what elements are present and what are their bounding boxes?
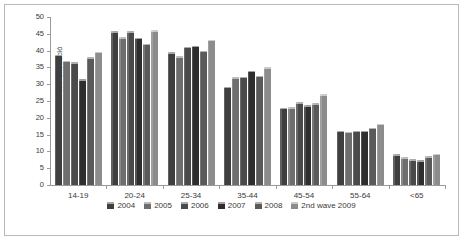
legend-item[interactable]: 2006 xyxy=(181,201,209,210)
x-axis-tick-label: 25-34 xyxy=(163,191,219,200)
bar xyxy=(176,56,183,185)
bar xyxy=(63,61,70,185)
bar xyxy=(256,76,263,185)
bar-highlight-edge xyxy=(337,131,339,185)
bar xyxy=(87,57,94,185)
legend-label: 2005 xyxy=(154,201,172,210)
x-axis-group-separator xyxy=(276,185,277,189)
y-axis-tick-label: 5 xyxy=(40,163,44,172)
legend-label: 2004 xyxy=(117,201,135,210)
chart-legend: 200420052006200720082nd wave 2009 xyxy=(5,201,458,210)
bar-group xyxy=(276,17,332,185)
y-axis-tick: 25 xyxy=(24,101,50,102)
bar-highlight-edge xyxy=(320,94,322,185)
x-axis-group-separator xyxy=(445,185,446,189)
y-axis-tick-label: 40 xyxy=(36,46,44,55)
legend-item[interactable]: 2008 xyxy=(255,201,283,210)
x-axis-tick-label: 20-24 xyxy=(106,191,162,200)
y-axis-tick-label: 50 xyxy=(36,12,44,21)
bar xyxy=(200,51,207,185)
y-axis-tick: 50 xyxy=(24,17,50,18)
legend-swatch-icon xyxy=(291,202,298,209)
x-axis-group-separator xyxy=(219,185,220,189)
bar xyxy=(240,77,247,185)
bar-highlight-edge xyxy=(95,52,97,185)
bar-highlight-edge xyxy=(87,57,89,185)
bar-highlight-edge xyxy=(288,107,290,185)
bar-highlight-edge xyxy=(168,52,170,185)
legend-item[interactable]: 2007 xyxy=(218,201,246,210)
legend-swatch-highlight xyxy=(291,202,298,204)
y-axis-tick: 15 xyxy=(24,135,50,136)
bar xyxy=(135,38,142,186)
legend-swatch-icon xyxy=(218,202,225,209)
y-axis-tick: 5 xyxy=(24,168,50,169)
x-axis-group-separator xyxy=(389,185,390,189)
bar-highlight-edge xyxy=(119,37,121,185)
bar-highlight-edge xyxy=(200,51,202,185)
y-axis-tick: 35 xyxy=(24,67,50,68)
y-axis-tick: 30 xyxy=(24,84,50,85)
bar-highlight-edge xyxy=(304,105,306,185)
legend-item[interactable]: 2005 xyxy=(144,201,172,210)
bar-highlight-edge xyxy=(361,131,363,185)
bar-highlight-edge xyxy=(55,55,57,185)
bar-highlight-edge xyxy=(151,30,153,185)
legend-item[interactable]: 2004 xyxy=(107,201,135,210)
bar xyxy=(345,132,352,185)
bar xyxy=(337,131,344,185)
legend-label: 2007 xyxy=(228,201,246,210)
x-axis-line xyxy=(50,185,445,186)
bar-group xyxy=(106,17,162,185)
bar-highlight-edge xyxy=(232,77,234,185)
bar xyxy=(55,55,62,185)
bar xyxy=(425,156,432,185)
x-axis-tick-label: 35-44 xyxy=(219,191,275,200)
bar xyxy=(127,31,134,185)
x-axis-group-separator xyxy=(163,185,164,189)
bar-highlight-edge xyxy=(417,160,419,185)
bar-highlight-edge xyxy=(264,67,266,185)
bar-highlight-edge xyxy=(184,47,186,185)
bar-highlight-edge xyxy=(63,61,65,185)
bar xyxy=(401,157,408,185)
y-axis-tick-label: 30 xyxy=(36,79,44,88)
y-axis-tick-label: 25 xyxy=(36,96,44,105)
legend-swatch-highlight xyxy=(144,202,151,204)
bar-highlight-edge xyxy=(296,102,298,185)
bar-highlight-edge xyxy=(143,44,145,185)
bar-highlight-edge xyxy=(369,128,371,185)
bar-highlight-edge xyxy=(377,124,379,185)
x-axis-tick-label: 55-64 xyxy=(332,191,388,200)
legend-item[interactable]: 2nd wave 2009 xyxy=(291,201,355,210)
bar-highlight-edge xyxy=(248,71,250,185)
bar-group xyxy=(219,17,275,185)
bar xyxy=(224,87,231,185)
y-axis-tick-label: 15 xyxy=(36,130,44,139)
bar xyxy=(168,52,175,185)
bar-highlight-edge xyxy=(111,31,113,185)
legend-swatch-highlight xyxy=(255,202,262,204)
bar xyxy=(232,77,239,185)
y-axis-tick: 40 xyxy=(24,51,50,52)
bar xyxy=(280,108,287,185)
bar xyxy=(304,105,311,185)
bar xyxy=(377,124,384,185)
legend-label: 2nd wave 2009 xyxy=(301,201,355,210)
y-axis-tick-label: 35 xyxy=(36,62,44,71)
bar xyxy=(79,79,86,185)
bar xyxy=(361,131,368,185)
bar-highlight-edge xyxy=(409,159,411,185)
bar xyxy=(417,160,424,185)
y-axis-tick: 10 xyxy=(24,151,50,152)
legend-swatch-highlight xyxy=(181,202,188,204)
bar xyxy=(119,37,126,185)
bar xyxy=(143,44,150,185)
bar xyxy=(184,47,191,185)
bar xyxy=(312,103,319,185)
bar xyxy=(208,40,215,185)
bar-highlight-edge xyxy=(280,108,282,185)
bar-highlight-edge xyxy=(425,156,427,185)
bar-group xyxy=(163,17,219,185)
plot-area: % Penetració 05101520253035404550 14-192… xyxy=(50,17,445,185)
